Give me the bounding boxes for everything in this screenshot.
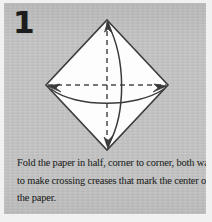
caption-line-3: the paper. bbox=[17, 189, 203, 207]
instruction-caption: Fold the paper in half, corner to corner… bbox=[17, 154, 203, 207]
page-root: 1 bbox=[0, 0, 212, 222]
origami-diagram-svg bbox=[4, 9, 206, 157]
origami-diagram bbox=[4, 9, 206, 157]
instruction-panel: 1 bbox=[4, 3, 206, 214]
caption-line-1: Fold the paper in half, corner to corner… bbox=[17, 154, 203, 172]
caption-line-2: to make crossing creases that mark the c… bbox=[17, 172, 203, 190]
